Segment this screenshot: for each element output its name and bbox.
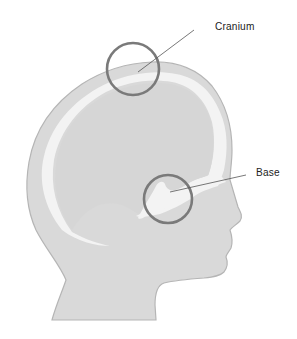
cranium-label: Cranium: [215, 20, 255, 32]
base-label: Base: [256, 166, 280, 178]
head-diagram: [0, 0, 297, 339]
